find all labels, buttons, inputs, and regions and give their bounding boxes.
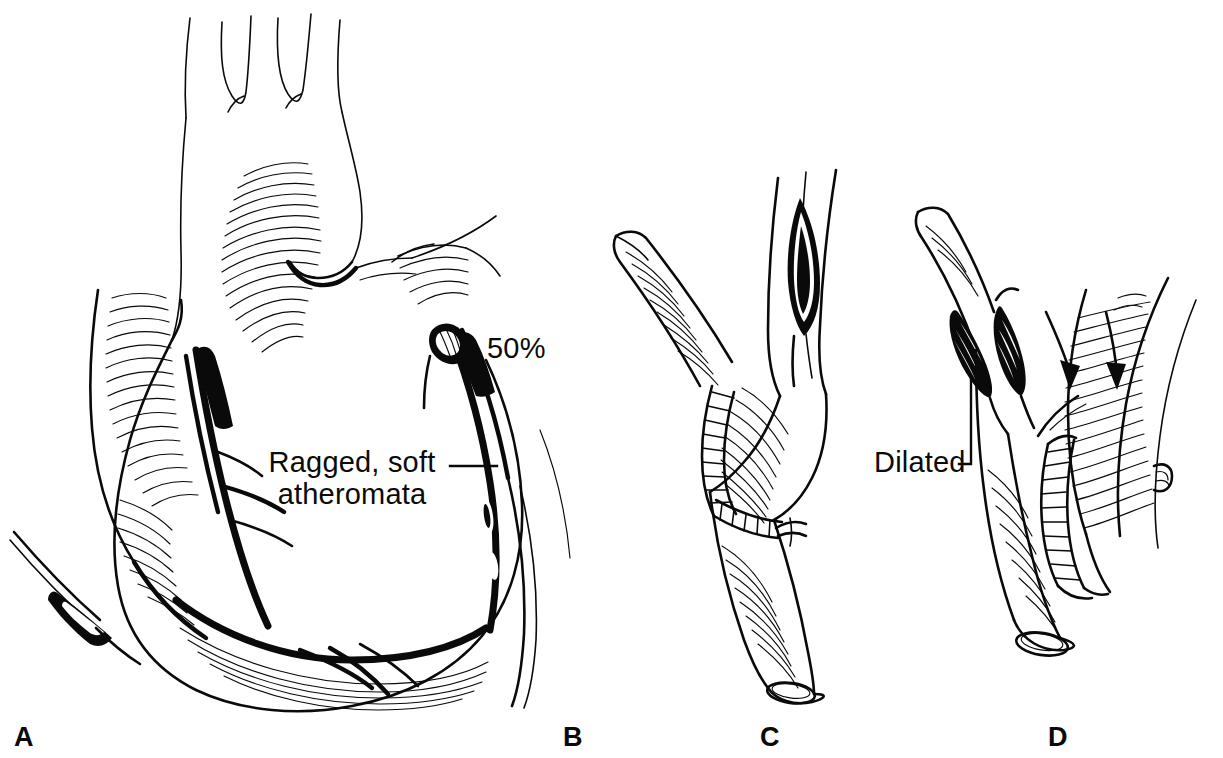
atheromata-label-line1: Ragged, soft <box>269 446 436 478</box>
medical-figure: 50% Ragged, soft atheromata <box>0 0 1223 758</box>
stenosis-label: 50% <box>487 332 546 364</box>
dilated-label: Dilated <box>874 446 966 478</box>
panel-letter-b: B <box>563 722 583 752</box>
figure-background <box>0 0 1223 758</box>
atheromata-label-line2: atheromata <box>278 478 427 510</box>
panel-letter-d: D <box>1048 722 1068 752</box>
panel-letter-c: C <box>760 722 780 752</box>
panel-letter-a: A <box>14 722 34 752</box>
figure-canvas: 50% Ragged, soft atheromata <box>0 0 1223 758</box>
